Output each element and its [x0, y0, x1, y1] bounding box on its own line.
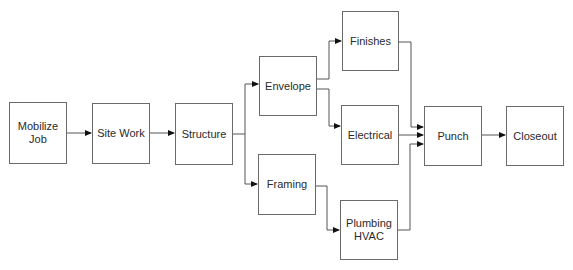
node-envelope: Envelope [259, 56, 317, 116]
edge-plumbing-punch [398, 144, 423, 230]
node-framing: Framing [258, 154, 316, 215]
edge-structure-envelope [233, 84, 258, 134]
node-site-work: Site Work [92, 103, 150, 164]
node-plumbing-hvac: Plumbing HVAC [340, 200, 398, 260]
node-closeout: Closeout [506, 106, 564, 166]
node-mobilize-job: Mobilize Job [9, 102, 67, 164]
node-structure: Structure [175, 103, 233, 165]
edge-framing-plumbing [316, 186, 339, 230]
edge-finishes-punch [399, 42, 423, 127]
node-punch: Punch [424, 106, 482, 166]
edge-envelope-electrical [317, 89, 340, 126]
flowchart-canvas: Mobilize Job Site Work Structure Envelop… [0, 0, 573, 270]
connector-layer [0, 0, 573, 270]
node-electrical: Electrical [341, 105, 399, 165]
edge-envelope-finishes [317, 41, 341, 79]
node-finishes: Finishes [342, 11, 399, 71]
edge-structure-framing [245, 134, 257, 184]
